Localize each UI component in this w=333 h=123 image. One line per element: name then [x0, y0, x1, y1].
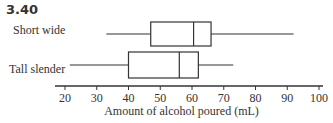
- x-tick-label: 90: [281, 91, 293, 105]
- x-tick-label: 70: [218, 91, 230, 105]
- x-tick-label: 80: [250, 91, 262, 105]
- x-tick-label: 30: [91, 91, 103, 105]
- box-iqr: [129, 52, 199, 78]
- x-axis-label: Amount of alcohol poured (mL): [0, 104, 333, 119]
- x-tick-label: 40: [123, 91, 135, 105]
- x-tick-label: 100: [310, 91, 328, 105]
- x-tick-label: 60: [186, 91, 198, 105]
- x-tick-label: 20: [59, 91, 71, 105]
- box-iqr: [151, 22, 211, 46]
- x-tick-label: 50: [154, 91, 166, 105]
